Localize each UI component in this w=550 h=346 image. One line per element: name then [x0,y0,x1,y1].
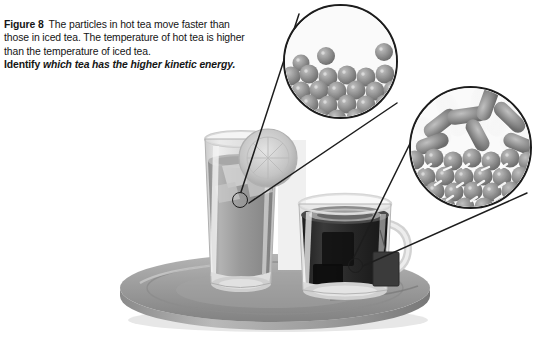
photo-scene [0,0,550,346]
hot-tea-particle-art [411,88,530,207]
iced-tea-particle-inset [283,4,398,119]
lemon-slice [239,129,297,187]
callout-marker-iced-tea [232,192,248,208]
callout-marker-hot-tea [348,258,363,273]
iced-tea-particle-art [285,6,396,117]
figure-root: Figure 8The particles in hot tea move fa… [0,0,550,346]
hot-tea-particle-inset [409,86,532,209]
packed-particles [411,148,530,207]
packed-particles [285,65,396,118]
